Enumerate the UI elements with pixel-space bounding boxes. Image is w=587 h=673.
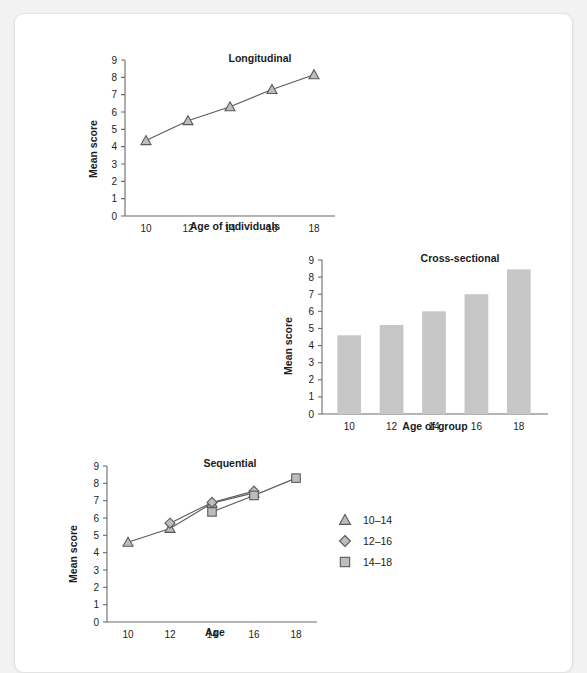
x-tick-label: 18: [308, 223, 320, 234]
chart-title-sequential: Sequential: [203, 457, 256, 469]
y-tick-label: 3: [308, 357, 314, 368]
marker-diamond: [340, 536, 351, 547]
plot-area-longitudinal: 01234567891012141618: [111, 55, 335, 235]
y-tick-label: 5: [111, 124, 117, 135]
x-tick-label: 16: [248, 629, 260, 640]
bar: [380, 325, 404, 414]
plot-area-cross-sectional: 01234567891012141618: [308, 255, 548, 433]
x-tick-label: 16: [471, 421, 483, 432]
marker-triangle: [225, 102, 235, 111]
y-tick-label: 2: [308, 374, 314, 385]
cross-sectional-svg: Cross-sectional Mean score Age of group …: [270, 236, 570, 436]
x-tick-label: 14: [224, 223, 236, 234]
x-tick-label: 18: [290, 629, 302, 640]
marker-triangle: [267, 84, 277, 93]
y-tick-label: 1: [111, 193, 117, 204]
x-tick-label: 10: [122, 629, 134, 640]
y-tick-label: 4: [93, 547, 99, 558]
x-tick-label: 12: [164, 629, 176, 640]
x-tick-label: 14: [428, 421, 440, 432]
y-axis-title-longitudinal: Mean score: [87, 120, 99, 178]
x-tick-label: 14: [206, 629, 218, 640]
chart-longitudinal: Longitudinal Mean score Age of individua…: [75, 34, 365, 234]
marker-triangle: [123, 537, 133, 546]
y-tick-label: 4: [308, 340, 314, 351]
bar: [465, 294, 489, 414]
marker-triangle: [340, 515, 351, 525]
longitudinal-svg: Longitudinal Mean score Age of individua…: [75, 34, 365, 234]
y-tick-label: 7: [93, 495, 99, 506]
marker-square: [250, 491, 259, 500]
x-tick-label: 10: [344, 421, 356, 432]
y-tick-label: 4: [111, 141, 117, 152]
y-tick-label: 8: [111, 72, 117, 83]
chart-title-cross-sectional: Cross-sectional: [421, 252, 500, 264]
marker-triangle: [309, 70, 319, 79]
x-tick-label: 10: [140, 223, 152, 234]
bar: [337, 335, 361, 414]
legend-item[interactable]: 14–18: [340, 556, 392, 568]
marker-square: [340, 557, 349, 566]
y-tick-label: 1: [93, 599, 99, 610]
legend-svg: 10–1412–1614–18: [337, 508, 477, 574]
chart-cross-sectional: Cross-sectional Mean score Age of group …: [270, 236, 570, 436]
y-tick-label: 0: [93, 617, 99, 628]
legend-sequential: 10–1412–1614–18: [337, 508, 477, 574]
y-axis-title-sequential: Mean score: [67, 525, 79, 583]
y-tick-label: 9: [93, 461, 99, 472]
x-tick-label: 12: [386, 421, 398, 432]
x-tick-label: 12: [182, 223, 194, 234]
marker-triangle: [183, 116, 193, 125]
chart-title-longitudinal: Longitudinal: [229, 52, 292, 64]
y-tick-label: 1: [308, 391, 314, 402]
y-tick-label: 9: [308, 255, 314, 266]
x-tick-label: 16: [266, 223, 278, 234]
y-tick-label: 0: [308, 409, 314, 420]
series-line: [128, 493, 254, 542]
legend-item[interactable]: 10–14: [340, 514, 393, 526]
y-tick-label: 6: [93, 513, 99, 524]
y-tick-label: 2: [93, 582, 99, 593]
y-tick-label: 6: [111, 107, 117, 118]
y-tick-label: 3: [111, 159, 117, 170]
y-tick-label: 5: [93, 530, 99, 541]
legend-item[interactable]: 12–16: [340, 535, 393, 547]
y-tick-label: 3: [93, 565, 99, 576]
legend-item-label: 14–18: [363, 556, 392, 568]
legend-item-label: 10–14: [363, 514, 392, 526]
figure-card: Longitudinal Mean score Age of individua…: [14, 13, 573, 673]
bar: [422, 311, 446, 414]
marker-triangle: [141, 136, 151, 145]
y-tick-label: 7: [111, 89, 117, 100]
bar: [507, 269, 531, 414]
legend-item-label: 12–16: [363, 535, 392, 547]
y-axis-title-cross-sectional: Mean score: [282, 317, 294, 375]
y-tick-label: 6: [308, 306, 314, 317]
y-tick-label: 0: [111, 211, 117, 222]
y-tick-label: 5: [308, 323, 314, 334]
marker-square: [208, 508, 217, 517]
y-tick-label: 8: [308, 272, 314, 283]
sequential-svg: Sequential Mean score Age 01234567891012…: [55, 442, 345, 642]
y-tick-label: 9: [111, 55, 117, 66]
x-tick-label: 18: [513, 421, 525, 432]
y-tick-label: 8: [93, 478, 99, 489]
plot-area-sequential: 01234567891012141618: [93, 461, 317, 641]
chart-sequential: Sequential Mean score Age 01234567891012…: [55, 442, 345, 642]
y-tick-label: 2: [111, 176, 117, 187]
marker-square: [292, 474, 301, 483]
y-tick-label: 7: [308, 289, 314, 300]
